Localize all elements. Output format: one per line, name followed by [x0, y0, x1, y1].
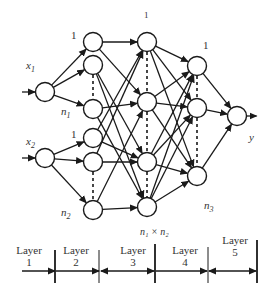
layer4-node-2 [188, 99, 207, 118]
layer2-node-3 [84, 100, 103, 119]
layer2-node-5 [84, 153, 103, 172]
layer3-node-2 [138, 93, 157, 112]
connection-edge [98, 73, 143, 153]
input-node-1 [36, 83, 55, 102]
layer2-node-4 [84, 129, 103, 148]
layer4-node-1 [188, 57, 207, 76]
layer-3-label: Layer3 [113, 244, 153, 268]
layer-5-label: Layer5 [215, 234, 255, 258]
connection-edge [102, 208, 137, 210]
input-node-2 [36, 149, 55, 168]
layer2-n1-label: n1 [61, 106, 71, 121]
layer-2-label: Layer2 [56, 244, 96, 268]
connection-edge [151, 117, 192, 199]
layer2-first-index-1: 1 [71, 30, 77, 41]
layer-4-label: Layer4 [165, 244, 205, 268]
connection-edge [97, 51, 143, 153]
layer4-first-index: 1 [203, 40, 209, 51]
layer3-first-index: 1 [144, 10, 149, 21]
connection-edge [150, 75, 193, 198]
input-label-x1: x1 [26, 60, 35, 75]
connection-edge [51, 165, 86, 203]
connection-edge [203, 73, 231, 108]
connection-edge [98, 51, 142, 130]
connection-edge [52, 49, 86, 85]
layer2-first-index-2: 1 [71, 129, 77, 140]
connection-edge [54, 95, 84, 105]
connection-edge [54, 159, 83, 161]
output-node [228, 107, 247, 126]
layer4-node-3 [188, 167, 207, 186]
connection-edge [54, 142, 84, 155]
layer2-node-2 [84, 56, 103, 75]
layer-1-label: Layer1 [9, 244, 49, 268]
layer4-n3-label: n3 [204, 200, 214, 215]
input-label-x2: x2 [26, 136, 35, 151]
layer3-node-4 [138, 198, 157, 217]
layer2-node-6 [84, 201, 103, 220]
connection-edge [97, 111, 142, 202]
layer2-n2-label: n2 [61, 207, 71, 222]
connection-edge [202, 124, 231, 168]
output-label-y: y [249, 132, 254, 143]
layer3-node-3 [138, 153, 157, 172]
layer3-node-1 [138, 33, 157, 52]
layer2-node-1 [84, 33, 103, 52]
connection-edge [151, 75, 192, 154]
connections [22, 42, 257, 209]
connection-edge [206, 110, 227, 114]
layer3-size-label: n₁ × n₂ [140, 226, 169, 237]
connection-edge [155, 181, 188, 202]
connection-edge [96, 74, 143, 198]
